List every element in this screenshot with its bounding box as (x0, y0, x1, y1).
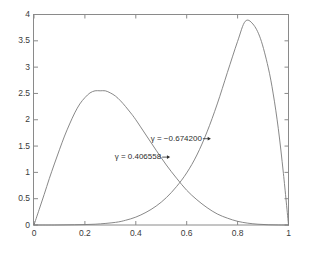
y-tick-label: 0.5 (0, 194, 30, 203)
x-tick-label: 0.2 (65, 229, 105, 238)
figure-canvas: 00.511.522.533.54 00.20.40.60.81 γ = −0.… (0, 0, 311, 255)
y-tick-label: 3 (0, 63, 30, 72)
y-tick-label: 2.5 (0, 89, 30, 98)
x-tick-label: 0.4 (116, 229, 156, 238)
y-tick-label: 2 (0, 115, 30, 124)
x-tick-label: 1 (269, 229, 309, 238)
x-tick-label: 0.6 (167, 229, 207, 238)
x-tick-label: 0 (14, 229, 54, 238)
x-tick-label: 0.8 (218, 229, 258, 238)
plot-svg (0, 0, 311, 255)
y-tick-label: 0 (0, 221, 30, 230)
annotation-gamma-negative: γ = −0.674200 (151, 135, 202, 143)
y-tick-label: 1 (0, 168, 30, 177)
y-tick-label: 1.5 (0, 142, 30, 151)
y-tick-label: 4 (0, 10, 30, 19)
y-tick-label: 3.5 (0, 36, 30, 45)
annotation-gamma-positive: γ = 0.406558 (115, 153, 161, 161)
